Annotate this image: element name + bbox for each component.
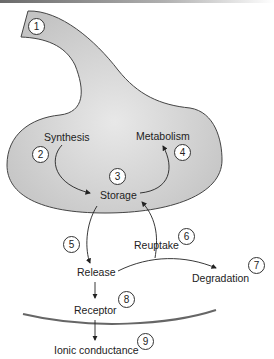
- storage-label: Storage: [100, 190, 137, 201]
- postsynaptic-membrane: [23, 310, 216, 324]
- synthesis-label: Synthesis: [44, 132, 90, 143]
- step-6-badge: 6: [178, 228, 195, 245]
- step-7-badge: 7: [248, 257, 265, 274]
- metabolism-label: Metabolism: [136, 131, 190, 142]
- step-8-badge: 8: [118, 291, 135, 308]
- degradation-label: Degradation: [192, 273, 249, 284]
- step-4-badge: 4: [174, 144, 191, 161]
- step-2-badge: 2: [32, 146, 49, 163]
- ionic-conductance-label: Ionic conductance: [54, 345, 139, 356]
- reuptake-label: Reuptake: [134, 240, 179, 251]
- step-9-badge: 9: [137, 333, 154, 350]
- synapse-diagram: [0, 0, 274, 359]
- release-label: Release: [77, 267, 116, 278]
- step-1-badge: 1: [28, 18, 45, 35]
- receptor-label: Receptor: [74, 305, 117, 316]
- step-5-badge: 5: [63, 236, 80, 253]
- step-3-badge: 3: [109, 168, 126, 185]
